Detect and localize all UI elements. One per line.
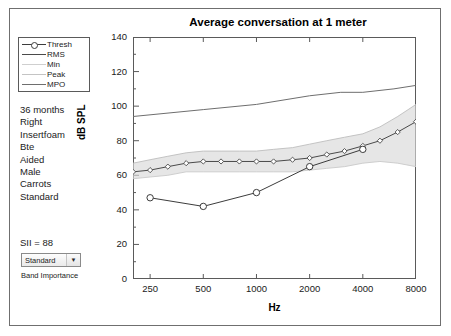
y-tick-label: 40 [101, 204, 127, 215]
y-tick-label: 20 [101, 238, 127, 249]
chevron-down-icon[interactable]: ▼ [66, 254, 80, 266]
y-tick-label: 140 [101, 31, 127, 42]
info-line-style: Bte [20, 141, 106, 153]
info-line-coupling: Insertfoam [20, 129, 106, 141]
legend-label-thresh: Thresh [47, 40, 72, 50]
legend-swatch-peak-icon [21, 70, 47, 80]
chart-plot-area [133, 37, 416, 279]
band-importance-selected-value: Standard [22, 256, 66, 265]
y-tick-label: 0 [101, 273, 127, 284]
band-importance-label: Band Importance [21, 271, 78, 280]
thresh-marker [147, 195, 153, 201]
thresh-marker [253, 189, 259, 195]
x-tick-label: 500 [183, 283, 223, 294]
x-tick-label: 250 [130, 283, 170, 294]
x-axis-title: Hz [133, 302, 416, 313]
band-importance-select[interactable]: Standard ▼ [21, 253, 81, 267]
legend-item-mpo: MPO [21, 80, 89, 90]
info-line-standard: Standard [20, 191, 106, 203]
legend-swatch-rms-icon [21, 50, 47, 60]
thresh-marker [360, 146, 366, 152]
legend-label-mpo: MPO [47, 80, 65, 90]
legend-swatch-thresh-icon [21, 40, 47, 50]
x-tick-label: 8000 [396, 283, 436, 294]
y-tick-label: 60 [101, 169, 127, 180]
legend-label-min: Min [47, 60, 60, 70]
legend-swatch-min-icon [21, 60, 47, 70]
info-line-age: 36 months [20, 104, 106, 116]
info-line-voice: Male [20, 166, 106, 178]
screenshot-root: Thresh RMS Min Peak MPO 3 [0, 0, 451, 336]
info-line-stimulus: Carrots [20, 178, 106, 190]
legend-item-min: Min [21, 60, 89, 70]
x-tick-label: 2000 [290, 283, 330, 294]
chart-svg [133, 37, 416, 279]
x-tick-label: 1000 [236, 283, 276, 294]
chart-legend: Thresh RMS Min Peak MPO [18, 37, 90, 92]
y-tick-label: 80 [101, 135, 127, 146]
thresh-marker [306, 163, 312, 169]
legend-label-peak: Peak [47, 70, 65, 80]
info-line-ear: Right [20, 116, 106, 128]
y-tick-label: 120 [101, 66, 127, 77]
legend-item-peak: Peak [21, 70, 89, 80]
info-line-condition: Aided [20, 154, 106, 166]
x-tick-label: 4000 [343, 283, 383, 294]
legend-item-thresh: Thresh [21, 40, 89, 50]
patient-info-list: 36 months Right Insertfoam Bte Aided Mal… [20, 104, 106, 203]
legend-label-rms: RMS [47, 50, 65, 60]
thresh-marker [200, 203, 206, 209]
legend-swatch-mpo-icon [21, 80, 47, 90]
y-tick-label: 100 [101, 100, 127, 111]
legend-item-rms: RMS [21, 50, 89, 60]
sii-value: SII = 88 [20, 237, 53, 248]
chart-title: Average conversation at 1 meter [118, 16, 438, 28]
y-axis-title: dB SPL [76, 104, 87, 140]
